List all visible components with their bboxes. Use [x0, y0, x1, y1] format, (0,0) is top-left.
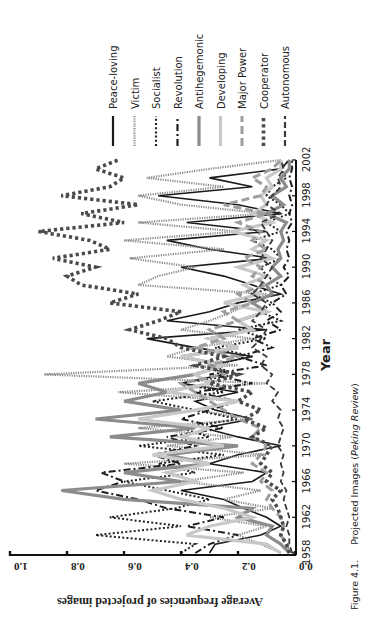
- legend: Peace-lovingVictimSocialistRevolutionAnt…: [108, 34, 291, 146]
- year-tick-label: 1962: [301, 504, 312, 529]
- caption-italic: Peking Review: [349, 387, 360, 456]
- year-tick-label: 1982: [301, 325, 312, 350]
- year-tick-label: 1990: [301, 254, 312, 279]
- legend-label: Major Power: [237, 47, 248, 109]
- figure-caption: Figure 4.1. Projected Images (Peking Rev…: [349, 383, 360, 610]
- year-tick-label: 1978: [301, 361, 312, 386]
- series-line-autonomous: [252, 160, 292, 553]
- rotated-line-chart: 0.00.20.40.60.81.01958196219661970197419…: [0, 0, 367, 628]
- year-tick-label: 1994: [301, 218, 312, 243]
- caption-label: Figure 4.1.: [349, 560, 360, 610]
- year-tick-label: 1986: [301, 289, 312, 314]
- plot-lines: [39, 160, 293, 553]
- legend-label: Antihegemonic: [194, 34, 205, 109]
- year-tick-label: 2002: [301, 147, 312, 172]
- y-axis-title: Average frequencies of projected images: [57, 595, 263, 609]
- value-tick-label: 0.8: [71, 561, 85, 573]
- legend-label: Cooperator: [259, 52, 270, 109]
- value-tick-label: 0.2: [242, 561, 256, 573]
- series-line-developing: [138, 160, 280, 553]
- caption-close: ): [349, 383, 360, 387]
- value-tick-label: 1.0: [14, 561, 28, 573]
- x-axis-title: Year: [318, 338, 333, 372]
- legend-label: Peace-loving: [108, 46, 119, 110]
- year-tick-label: 1998: [301, 182, 312, 207]
- legend-label: Autonomous: [280, 46, 291, 109]
- caption-text: Projected Images (: [349, 456, 360, 545]
- value-tick-label: 0.6: [128, 561, 142, 573]
- value-tick-label: 0.4: [185, 561, 199, 573]
- year-tick-label: 1966: [301, 468, 312, 493]
- legend-label: Developing: [216, 52, 227, 109]
- year-tick-label: 1970: [301, 432, 312, 457]
- year-tick-label: 1974: [301, 397, 312, 422]
- year-tick-label: 1958: [301, 540, 312, 565]
- legend-label: Victim: [130, 78, 141, 109]
- legend-label: Revolution: [173, 56, 184, 109]
- legend-label: Socialist: [151, 67, 162, 109]
